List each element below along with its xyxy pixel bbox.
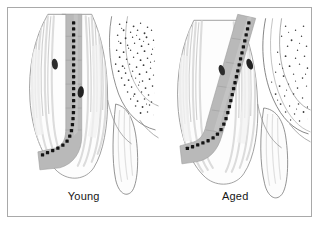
bone-structure-young bbox=[108, 16, 159, 194]
panel-aged: Aged bbox=[160, 8, 312, 216]
panel-label-young: Young bbox=[8, 190, 160, 202]
panel-aged-illustration bbox=[160, 8, 312, 216]
panel-young: Young bbox=[8, 8, 160, 216]
stipple-cloud-aged bbox=[270, 25, 308, 121]
bone-structure-aged bbox=[257, 18, 310, 198]
figure-frame: Young bbox=[7, 7, 312, 217]
figure-root: Young bbox=[0, 0, 320, 225]
panel-young-illustration bbox=[8, 8, 160, 216]
panel-label-aged: Aged bbox=[160, 190, 312, 202]
